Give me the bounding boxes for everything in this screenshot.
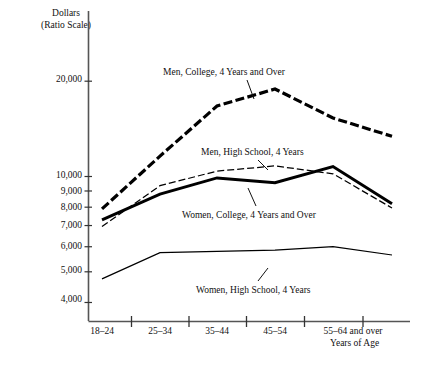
chart-container: Dollars (Ratio Scale) Years of Age 20,00… xyxy=(0,0,436,365)
leader-line-women-high-school xyxy=(258,268,268,281)
leader-line-men-high-school xyxy=(258,160,268,170)
data-series-group xyxy=(102,89,392,279)
axis-lines xyxy=(89,11,411,322)
series-line-3 xyxy=(102,247,392,279)
plot-area xyxy=(0,0,436,365)
series-line-2 xyxy=(102,167,392,220)
leader-line-women-college xyxy=(248,188,256,206)
series-line-0 xyxy=(102,89,392,209)
